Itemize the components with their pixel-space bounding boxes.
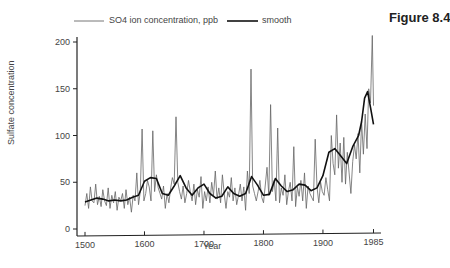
legend-label-smooth: smooth — [262, 15, 292, 25]
x-tick-label: 1900 — [313, 238, 333, 248]
x-ticks: 150016001700180019001985 — [75, 229, 384, 250]
x-tick-label: 1600 — [134, 239, 154, 249]
y-axis-label: Sulfate concentration — [6, 60, 16, 145]
y-ticks: 050100150200 — [55, 37, 77, 234]
y-tick-label: 0 — [65, 224, 70, 234]
x-axis-label: Year — [203, 241, 221, 251]
x-tick-label: 1800 — [253, 238, 273, 248]
y-tick-label: 50 — [60, 177, 70, 187]
x-tick-label: 1500 — [75, 240, 95, 250]
y-tick-label: 200 — [55, 37, 70, 47]
x-tick-label: 1985 — [363, 237, 383, 247]
y-tick-label: 150 — [55, 84, 70, 94]
y-tick-label: 100 — [55, 131, 70, 141]
legend-label-raw: SO4 ion concentration, ppb — [109, 15, 218, 25]
x-axis — [77, 233, 381, 236]
chart-axes: 050100150200 150016001700180019001985 — [55, 37, 384, 250]
series-line-raw — [85, 36, 374, 213]
